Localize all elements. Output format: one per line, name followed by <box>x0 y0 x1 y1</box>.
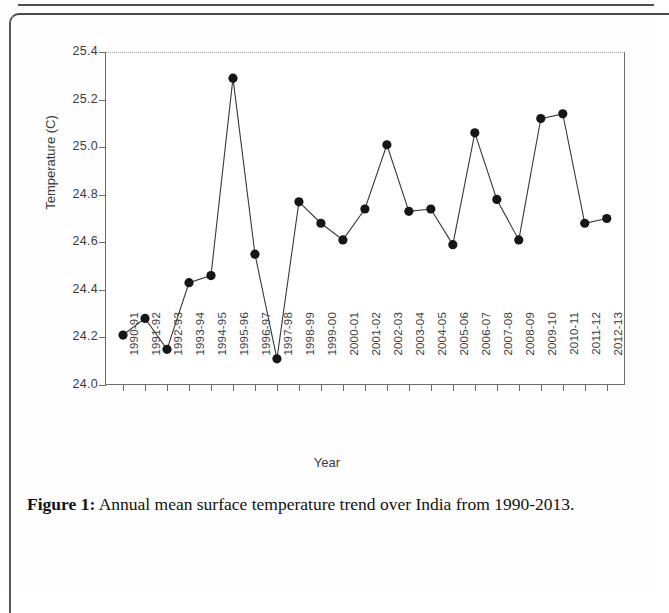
x-tick-label: 1998-99 <box>304 312 316 392</box>
x-tick-mark <box>387 385 388 391</box>
data-point <box>140 314 149 323</box>
x-tick-label: 2007-08 <box>502 312 514 392</box>
y-tick-mark <box>99 385 106 386</box>
x-tick-label: 2008-09 <box>524 312 536 392</box>
x-tick-label: 2009-10 <box>546 312 558 392</box>
y-tick-mark <box>99 195 106 196</box>
y-tick-label: 25.4 <box>52 44 98 58</box>
y-tick-mark <box>99 290 106 291</box>
x-tick-mark <box>475 385 476 391</box>
x-tick-mark <box>365 385 366 391</box>
data-point <box>316 219 325 228</box>
x-tick-mark <box>607 385 608 391</box>
x-tick-mark <box>453 385 454 391</box>
x-tick-label: 2000-01 <box>348 312 360 392</box>
x-tick-label: 2001-02 <box>370 312 382 392</box>
x-tick-mark <box>431 385 432 391</box>
x-tick-mark <box>211 385 212 391</box>
data-point <box>360 204 369 213</box>
data-point <box>558 109 567 118</box>
data-point <box>536 114 545 123</box>
x-tick-mark <box>277 385 278 391</box>
x-tick-label: 1994-95 <box>216 312 228 392</box>
data-point <box>294 197 303 206</box>
x-tick-label: 1993-94 <box>194 312 206 392</box>
data-point <box>118 330 127 339</box>
data-point <box>580 219 589 228</box>
data-point <box>448 240 457 249</box>
data-point <box>492 195 501 204</box>
temperature-series-markers <box>118 74 611 364</box>
x-tick-label: 1992-93 <box>172 312 184 392</box>
x-tick-mark <box>299 385 300 391</box>
x-tick-label: 1997-98 <box>282 312 294 392</box>
x-tick-mark <box>541 385 542 391</box>
data-point <box>206 271 215 280</box>
y-tick-label: 24.4 <box>52 282 98 296</box>
y-tick-label: 24.6 <box>52 234 98 248</box>
y-tick-label: 24.8 <box>52 187 98 201</box>
y-tick-mark <box>99 100 106 101</box>
y-tick-label: 25.2 <box>52 92 98 106</box>
x-tick-label: 1991-92 <box>150 312 162 392</box>
x-tick-mark <box>497 385 498 391</box>
x-tick-mark <box>343 385 344 391</box>
data-point <box>184 278 193 287</box>
data-point <box>228 74 237 83</box>
figure-caption: Figure 1: Annual mean surface temperatur… <box>27 492 631 517</box>
data-point <box>426 204 435 213</box>
figure-chart: 24.024.224.424.624.825.025.225.4 1990-91… <box>0 0 654 478</box>
x-tick-mark <box>585 385 586 391</box>
x-tick-label: 2004-05 <box>436 312 448 392</box>
data-point <box>514 235 523 244</box>
y-tick-mark <box>99 337 106 338</box>
x-tick-mark <box>563 385 564 391</box>
x-tick-label: 1995-96 <box>238 312 250 392</box>
x-tick-mark <box>233 385 234 391</box>
x-tick-label: 1990-91 <box>128 312 140 392</box>
data-point <box>602 214 611 223</box>
x-tick-mark <box>321 385 322 391</box>
y-tick-mark <box>99 52 106 53</box>
x-tick-mark <box>519 385 520 391</box>
x-axis-title: Year <box>0 455 654 470</box>
y-tick-label: 24.0 <box>52 377 98 391</box>
figure-caption-label: Figure 1: <box>27 494 95 514</box>
x-tick-label: 2011-12 <box>590 312 602 392</box>
x-tick-label: 2012-13 <box>612 312 624 392</box>
data-point <box>272 354 281 363</box>
y-tick-mark <box>99 147 106 148</box>
x-tick-label: 2005-06 <box>458 312 470 392</box>
y-tick-mark <box>99 242 106 243</box>
y-axis-title: Temperature (C) <box>43 73 58 253</box>
x-tick-label: 2006-07 <box>480 312 492 392</box>
x-tick-label: 2003-04 <box>414 312 426 392</box>
x-tick-label: 2002-03 <box>392 312 404 392</box>
data-point <box>250 250 259 259</box>
x-tick-mark <box>145 385 146 391</box>
x-tick-mark <box>123 385 124 391</box>
x-tick-label: 2010-11 <box>568 312 580 392</box>
x-tick-label: 1999-00 <box>326 312 338 392</box>
x-tick-label: 1996-97 <box>260 312 272 392</box>
x-tick-mark <box>409 385 410 391</box>
x-tick-mark <box>167 385 168 391</box>
data-point <box>338 235 347 244</box>
y-tick-label: 24.2 <box>52 329 98 343</box>
x-tick-mark <box>189 385 190 391</box>
figure-caption-text: Annual mean surface temperature trend ov… <box>95 494 574 514</box>
data-point <box>162 345 171 354</box>
y-tick-label: 25.0 <box>52 139 98 153</box>
data-point <box>470 128 479 137</box>
x-tick-mark <box>255 385 256 391</box>
data-point <box>382 140 391 149</box>
data-point <box>404 207 413 216</box>
